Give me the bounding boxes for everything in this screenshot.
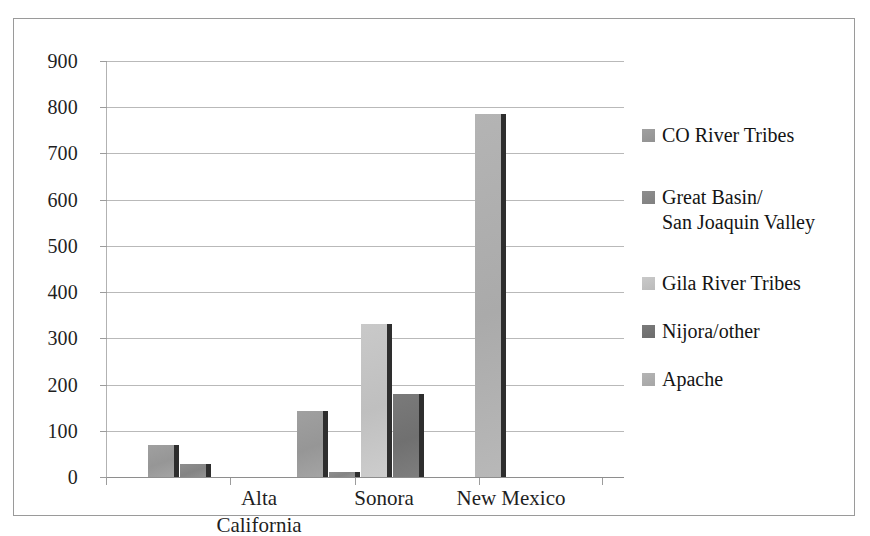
bar-shadow xyxy=(355,472,360,477)
y-axis: 9008007006005004003002001000 xyxy=(14,19,86,479)
bar-fill xyxy=(329,472,355,477)
legend-swatch-icon xyxy=(642,373,655,386)
x-axis-tick-mark xyxy=(355,478,356,485)
bar[interactable] xyxy=(180,464,206,477)
legend-item-label: CO River Tribes xyxy=(662,123,794,148)
bar-fill xyxy=(393,394,419,477)
x-axis: Alta CaliforniaSonoraNew Mexico xyxy=(106,485,624,536)
y-axis-tick-label: 600 xyxy=(47,190,78,210)
bar-fill xyxy=(180,464,206,477)
gridline xyxy=(106,246,624,247)
bar-shadow xyxy=(501,114,506,477)
bar-shadow xyxy=(419,394,424,477)
legend-item-label: Gila River Tribes xyxy=(662,271,801,296)
x-axis-tick-mark xyxy=(479,478,480,485)
y-axis-tick-label: 300 xyxy=(47,328,78,348)
gridline xyxy=(106,107,624,108)
y-axis-tick-mark xyxy=(100,292,107,293)
y-axis-tick-label: 0 xyxy=(68,467,78,487)
y-axis-tick-label: 100 xyxy=(47,421,78,441)
y-axis-tick-mark xyxy=(100,107,107,108)
y-axis-tick-label: 500 xyxy=(47,236,78,256)
legend-item[interactable]: CO River Tribes xyxy=(642,123,794,148)
y-axis-tick-mark xyxy=(100,200,107,201)
bar[interactable] xyxy=(361,324,387,477)
y-axis-tick-label: 800 xyxy=(47,97,78,117)
y-axis-tick-label: 400 xyxy=(47,282,78,302)
bar-fill xyxy=(475,114,501,477)
legend-item[interactable]: Gila River Tribes xyxy=(642,271,801,296)
y-axis-tick-mark xyxy=(100,338,107,339)
bar[interactable] xyxy=(148,445,174,477)
y-axis-tick-label: 900 xyxy=(47,51,78,71)
bar[interactable] xyxy=(475,114,501,477)
y-axis-tick-mark xyxy=(100,385,107,386)
x-axis-tick-mark xyxy=(602,478,603,485)
bar-shadow xyxy=(387,324,392,477)
plot-region: 9008007006005004003002001000 Alta Califo… xyxy=(14,19,634,517)
bar-shadow xyxy=(174,445,179,477)
legend-item-label: Great Basin/ San Joaquin Valley xyxy=(662,185,815,235)
y-axis-tick-mark xyxy=(100,431,107,432)
chart-frame: 9008007006005004003002001000 Alta Califo… xyxy=(13,18,855,516)
legend-item-label: Apache xyxy=(662,367,723,392)
y-axis-tick-mark xyxy=(100,246,107,247)
bar[interactable] xyxy=(297,411,323,477)
y-axis-tick-label: 700 xyxy=(47,143,78,163)
legend-swatch-icon xyxy=(642,277,655,290)
gridline xyxy=(106,61,624,62)
legend-item-label: Nijora/other xyxy=(662,319,760,344)
x-axis-tick-mark xyxy=(106,478,107,485)
legend-item[interactable]: Nijora/other xyxy=(642,319,760,344)
bar[interactable] xyxy=(393,394,419,477)
x-axis-line xyxy=(106,477,624,478)
bar-fill xyxy=(148,445,174,477)
legend-item[interactable]: Great Basin/ San Joaquin Valley xyxy=(642,185,815,235)
legend-swatch-icon xyxy=(642,325,655,338)
gridline xyxy=(106,292,624,293)
legend-swatch-icon xyxy=(642,191,655,204)
plot-area xyxy=(106,61,624,477)
bar-fill xyxy=(361,324,387,477)
x-axis-tick-mark xyxy=(230,478,231,485)
legend-swatch-icon xyxy=(642,129,655,142)
bar-fill xyxy=(297,411,323,477)
y-axis-tick-mark xyxy=(100,61,107,62)
gridline xyxy=(106,200,624,201)
gridline xyxy=(106,153,624,154)
x-axis-category-label: New Mexico xyxy=(426,485,596,512)
bar[interactable] xyxy=(329,472,355,477)
legend-item[interactable]: Apache xyxy=(642,367,723,392)
bar-shadow xyxy=(323,411,328,477)
y-axis-tick-label: 200 xyxy=(47,375,78,395)
y-axis-tick-mark xyxy=(100,153,107,154)
bar-shadow xyxy=(206,464,211,477)
